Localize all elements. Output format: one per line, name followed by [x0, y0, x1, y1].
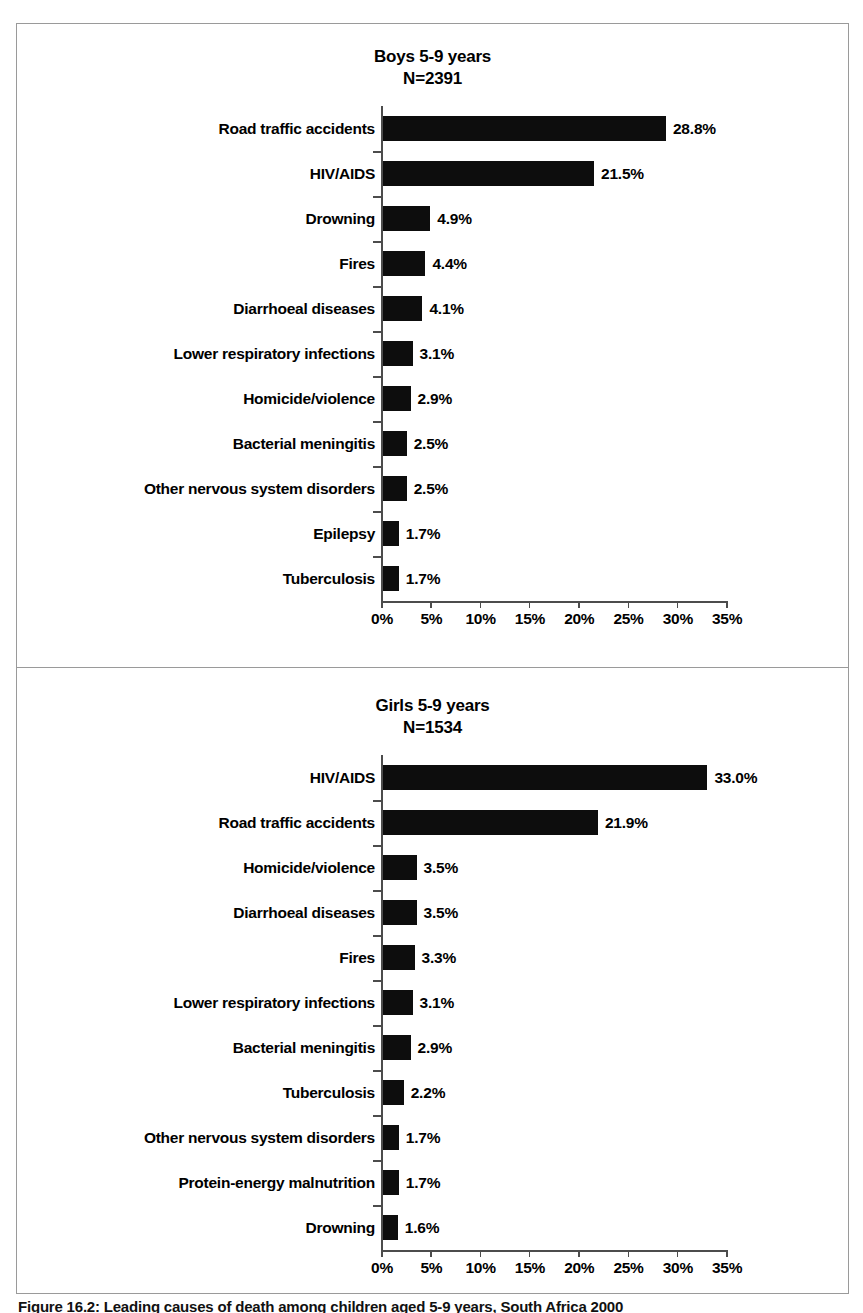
bar-row: HIV/AIDS21.5% [17, 151, 848, 196]
bar-container: 3.3% [382, 945, 848, 970]
chart-panel-boys: Boys 5-9 years N=2391 Road traffic accid… [17, 24, 848, 667]
x-axis-tick [480, 601, 482, 608]
bar [382, 945, 415, 970]
chart-sample-size: N=1534 [17, 717, 848, 739]
bar [382, 116, 666, 141]
bar-row: Other nervous system disorders1.7% [17, 1115, 848, 1160]
bar [382, 476, 407, 501]
x-axis-tick-label: 15% [515, 610, 545, 628]
bar-value-label: 28.8% [666, 116, 716, 141]
x-axis-tick-label: 5% [420, 1259, 442, 1277]
x-axis-tick-label: 25% [613, 1259, 643, 1277]
bar-row: Lower respiratory infections3.1% [17, 331, 848, 376]
bar-row: Tuberculosis1.7% [17, 556, 848, 601]
y-axis-tick [373, 556, 382, 558]
y-axis-tick [373, 800, 382, 802]
bar-container: 21.9% [382, 810, 848, 835]
bar-container: 21.5% [382, 161, 848, 186]
bar [382, 855, 417, 880]
bar [382, 1125, 399, 1150]
bar-row: Other nervous system disorders2.5% [17, 466, 848, 511]
x-axis-tick-label: 0% [371, 1259, 393, 1277]
bar-row: Homicide/violence3.5% [17, 845, 848, 890]
bar-value-label: 1.7% [399, 566, 441, 591]
bar-value-label: 1.7% [399, 1170, 441, 1195]
bar-category-label: Drowning [306, 196, 375, 241]
bar-category-label: Drowning [306, 1205, 375, 1250]
y-axis-tick [373, 151, 382, 153]
bar-category-label: Protein-energy malnutrition [179, 1160, 376, 1205]
bar-value-label: 21.5% [594, 161, 644, 186]
bar-value-label: 21.9% [598, 810, 648, 835]
plot-area-girls: HIV/AIDS33.0%Road traffic accidents21.9%… [17, 755, 848, 1250]
bar-rows-girls: HIV/AIDS33.0%Road traffic accidents21.9%… [17, 755, 848, 1250]
y-axis-tick [373, 286, 382, 288]
bar-row: Tuberculosis2.2% [17, 1070, 848, 1115]
bar [382, 1080, 404, 1105]
bar-container: 2.5% [382, 476, 848, 501]
bar-container: 2.9% [382, 1035, 848, 1060]
bar-value-label: 4.9% [430, 206, 472, 231]
chart-title-boys: Boys 5-9 years N=2391 [17, 46, 848, 90]
bar-category-label: Fires [339, 241, 375, 286]
bar [382, 296, 422, 321]
bar-container: 1.7% [382, 1125, 848, 1150]
bar [382, 1170, 399, 1195]
x-axis-tick-label: 35% [712, 610, 742, 628]
x-axis-tick [677, 1250, 679, 1257]
y-axis-tick [373, 196, 382, 198]
bar-value-label: 3.3% [415, 945, 457, 970]
bar-value-label: 2.2% [404, 1080, 446, 1105]
x-axis-tick-label: 20% [564, 1259, 594, 1277]
bar [382, 810, 598, 835]
y-axis-tick [373, 1115, 382, 1117]
x-axis-tick [628, 1250, 630, 1257]
bar-container: 33.0% [382, 765, 848, 790]
y-axis-tick [373, 1070, 382, 1072]
x-axis-tick-label: 20% [564, 610, 594, 628]
bar-container: 1.7% [382, 566, 848, 591]
bar-value-label: 1.7% [399, 521, 441, 546]
bar-category-label: Fires [339, 935, 375, 980]
figure-frame: Boys 5-9 years N=2391 Road traffic accid… [16, 23, 849, 1294]
x-axis-tick-label: 30% [663, 610, 693, 628]
chart-sample-size: N=2391 [17, 68, 848, 90]
bar-row: Fires3.3% [17, 935, 848, 980]
x-axis-tick [578, 601, 580, 608]
chart-title-text: Boys 5-9 years [374, 47, 491, 66]
bar-value-label: 4.4% [425, 251, 467, 276]
bar-category-label: Lower respiratory infections [174, 331, 375, 376]
y-axis-tick [373, 511, 382, 513]
y-axis-tick [373, 845, 382, 847]
bar-container: 3.5% [382, 900, 848, 925]
bar-category-label: Road traffic accidents [219, 800, 375, 845]
bar-category-label: Other nervous system disorders [144, 1115, 375, 1160]
bar-value-label: 3.1% [413, 341, 455, 366]
bar-row: HIV/AIDS33.0% [17, 755, 848, 800]
bar-value-label: 4.1% [422, 296, 464, 321]
bar-row: Bacterial meningitis2.5% [17, 421, 848, 466]
bar [382, 900, 417, 925]
x-axis-tick [480, 1250, 482, 1257]
y-axis-tick [373, 890, 382, 892]
chart-title-girls: Girls 5-9 years N=1534 [17, 695, 848, 739]
bar-value-label: 2.5% [407, 476, 449, 501]
x-axis-tick [381, 1250, 383, 1257]
x-axis-tick [726, 1250, 728, 1257]
bar-container: 4.9% [382, 206, 848, 231]
bar [382, 521, 399, 546]
y-axis-tick [373, 331, 382, 333]
bar [382, 990, 413, 1015]
x-axis-girls: 0%5%10%15%20%25%30%35% [17, 1250, 848, 1280]
bar-value-label: 1.7% [399, 1125, 441, 1150]
y-axis-tick [373, 1160, 382, 1162]
bar-category-label: Other nervous system disorders [144, 466, 375, 511]
bar-row: Drowning1.6% [17, 1205, 848, 1250]
bar-value-label: 2.9% [411, 1035, 453, 1060]
bar-category-label: Homicide/violence [243, 845, 375, 890]
x-axis-tick-label: 10% [466, 610, 496, 628]
bar-container: 2.2% [382, 1080, 848, 1105]
y-axis-line [381, 755, 383, 1250]
bar-value-label: 3.5% [417, 855, 459, 880]
bar [382, 1215, 398, 1240]
